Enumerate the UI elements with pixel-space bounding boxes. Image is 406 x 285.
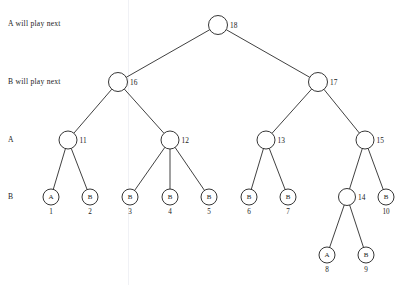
- tree-edge-n17-n15: [324, 89, 359, 133]
- tree-node-n8[interactable]: A8: [319, 247, 335, 274]
- node-circle-n17[interactable]: [309, 73, 328, 92]
- node-circle-n16[interactable]: [109, 73, 128, 92]
- node-index-label-n3: 3: [128, 208, 132, 216]
- node-circle-n14[interactable]: [339, 189, 356, 206]
- tree-edge-n16-n11: [74, 89, 112, 133]
- tree-node-n1[interactable]: A1: [43, 189, 59, 216]
- node-index-label-n9: 9: [364, 266, 368, 274]
- node-index-label-n15: 15: [377, 136, 385, 145]
- node-index-label-n4: 4: [168, 208, 172, 216]
- tree-edge-n12-n5: [175, 147, 204, 190]
- node-index-label-n5: 5: [207, 208, 211, 216]
- node-index-label-n18: 18: [230, 21, 238, 30]
- tree-node-n3[interactable]: B3: [122, 189, 138, 216]
- tree-edge-n11-n1: [53, 149, 65, 190]
- tree-node-n16[interactable]: 16: [109, 73, 138, 92]
- node-index-label-n7: 7: [286, 208, 290, 216]
- node-index-label-n1: 1: [49, 208, 53, 216]
- node-player-label-n3: B: [128, 193, 133, 201]
- node-index-label-n2: 2: [88, 208, 92, 216]
- tree-edge-n18-n16: [126, 30, 210, 78]
- node-circle-n18[interactable]: [209, 16, 228, 35]
- node-player-label-n4: B: [168, 193, 173, 201]
- tree-node-n10[interactable]: B10: [378, 189, 394, 216]
- node-layer: 18161711121315A1B2B3B4B5B6B714B10A8B9: [43, 16, 394, 275]
- tree-node-n18[interactable]: 18: [209, 16, 238, 35]
- row-b: B: [8, 193, 13, 201]
- tree-edge-n16-n12: [124, 89, 164, 133]
- row-a: A: [8, 136, 14, 144]
- tree-edge-n18-n17: [226, 30, 310, 78]
- node-circle-n11[interactable]: [59, 131, 77, 149]
- tree-edge-n15-n14: [350, 149, 363, 189]
- node-player-label-n9: B: [364, 251, 369, 259]
- tree-node-n17[interactable]: 17: [309, 73, 338, 92]
- node-index-label-n6: 6: [247, 208, 251, 216]
- tree-node-n2[interactable]: B2: [82, 189, 98, 216]
- tree-edge-n11-n2: [71, 148, 87, 189]
- tree-edge-n13-n6: [251, 149, 263, 190]
- node-index-label-n13: 13: [278, 136, 286, 145]
- tree-node-n4[interactable]: B4: [162, 189, 178, 216]
- node-player-label-n1: A: [48, 193, 53, 201]
- tree-node-n9[interactable]: B9: [358, 247, 374, 274]
- node-index-label-n12: 12: [182, 136, 190, 145]
- node-player-label-n6: B: [247, 193, 252, 201]
- tree-edge-n15-n10: [368, 148, 383, 189]
- tree-node-n12[interactable]: 12: [161, 131, 189, 149]
- node-index-label-n10: 10: [382, 208, 390, 216]
- tree-node-n15[interactable]: 15: [356, 131, 384, 149]
- tree-node-n14[interactable]: 14: [339, 189, 366, 206]
- node-index-label-n16: 16: [130, 78, 138, 87]
- tree-edge-n14-n8: [330, 205, 345, 247]
- node-index-label-n8: 8: [325, 266, 329, 274]
- row-a-will-play-next: A will play next: [8, 20, 61, 28]
- node-index-label-n17: 17: [330, 78, 338, 87]
- node-player-label-n5: B: [207, 193, 212, 201]
- tree-canvas: 18161711121315A1B2B3B4B5B6B714B10A8B9: [0, 0, 406, 285]
- edge-layer: [53, 30, 383, 248]
- tree-edge-n13-n7: [269, 148, 285, 189]
- node-circle-n15[interactable]: [356, 131, 374, 149]
- game-tree-diagram: 18161711121315A1B2B3B4B5B6B714B10A8B9 A …: [0, 0, 406, 285]
- tree-edge-n14-n9: [350, 205, 364, 247]
- node-player-label-n8: A: [324, 251, 329, 259]
- node-index-label-n11: 11: [80, 136, 87, 145]
- node-index-label-n14: 14: [358, 193, 366, 202]
- node-circle-n13[interactable]: [257, 131, 275, 149]
- node-player-label-n7: B: [286, 193, 291, 201]
- tree-edge-n12-n3: [135, 147, 165, 190]
- tree-node-n11[interactable]: 11: [59, 131, 87, 149]
- row-b-will-play-next: B will play next: [8, 78, 61, 86]
- node-player-label-n10: B: [384, 193, 389, 201]
- tree-node-n6[interactable]: B6: [241, 189, 257, 216]
- tree-node-n5[interactable]: B5: [201, 189, 217, 216]
- node-player-label-n2: B: [88, 193, 93, 201]
- tree-node-n7[interactable]: B7: [280, 189, 296, 216]
- tree-node-n13[interactable]: 13: [257, 131, 285, 149]
- tree-edge-n17-n13: [272, 89, 312, 133]
- node-circle-n12[interactable]: [161, 131, 179, 149]
